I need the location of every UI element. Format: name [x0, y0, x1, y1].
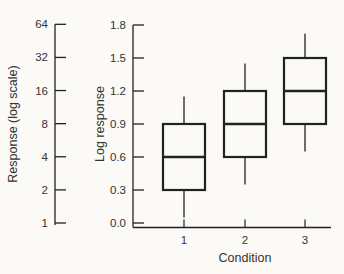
y-axis-tick-label: 0.0	[110, 217, 126, 229]
left-axis-tick-label: 16	[35, 85, 48, 97]
boxplot-chart: 1248163264Response (log scale)0.00.30.60…	[0, 0, 344, 274]
left-axis-tick-label: 4	[42, 151, 49, 163]
left-axis-tick-label: 8	[42, 118, 48, 130]
y-axis-tick-label: 0.6	[110, 151, 126, 163]
y-axis-tick-label: 0.3	[110, 184, 126, 196]
x-axis-tick-label: 1	[181, 234, 187, 246]
y-axis-tick-label: 1.8	[110, 19, 126, 31]
y-axis-tick-label: 1.5	[110, 52, 126, 64]
figure-background	[0, 0, 344, 274]
boxplot-figure: 1248163264Response (log scale)0.00.30.60…	[0, 0, 344, 274]
x-axis-tick-label: 3	[302, 234, 308, 246]
y-axis-tick-label: 1.2	[110, 85, 126, 97]
left-axis-tick-label: 1	[42, 217, 48, 229]
left-axis-tick-label: 2	[42, 184, 48, 196]
x-axis-tick-label: 2	[242, 234, 248, 246]
left-axis-title: Response (log scale)	[6, 65, 20, 182]
left-axis-tick-label: 64	[35, 18, 48, 30]
y-axis-title: Log response	[93, 86, 107, 162]
x-axis-title: Condition	[219, 251, 272, 265]
y-axis-tick-label: 0.9	[110, 118, 126, 130]
left-axis-tick-label: 32	[35, 51, 48, 63]
